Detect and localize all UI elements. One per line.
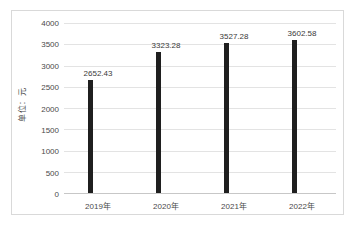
chart-frame: 单位：元 40003500300025002000150010005000 26… xyxy=(11,10,344,215)
bar-group: 2652.432019年 xyxy=(64,23,132,193)
bar-group: 3323.282020年 xyxy=(132,23,200,193)
gridline: 0 xyxy=(64,193,336,194)
plot-area: 40003500300025002000150010005000 2652.43… xyxy=(64,23,336,193)
bar[interactable] xyxy=(88,80,93,193)
x-axis-tick-label: 2019年 xyxy=(85,200,111,211)
bar[interactable] xyxy=(224,43,229,193)
x-axis-tick-label: 2020年 xyxy=(153,200,179,211)
x-axis-tick-label: 2022年 xyxy=(289,200,315,211)
bars-layer: 2652.432019年3323.282020年3527.282021年3602… xyxy=(64,23,336,193)
y-axis-tick-label: 1500 xyxy=(41,125,59,134)
y-axis-tick-label: 4000 xyxy=(41,19,59,28)
bar-value-label: 3323.28 xyxy=(152,41,181,50)
bar-value-label: 3602.58 xyxy=(288,29,317,38)
y-axis-tick-label: 0 xyxy=(55,190,59,199)
x-axis-tick-label: 2021年 xyxy=(221,200,247,211)
bar-value-label: 3527.28 xyxy=(220,32,249,41)
y-axis-tick-label: 500 xyxy=(46,168,59,177)
y-axis-tick-label: 2000 xyxy=(41,104,59,113)
bar-group: 3527.282021年 xyxy=(200,23,268,193)
bar-group: 3602.582022年 xyxy=(268,23,336,193)
bar[interactable] xyxy=(292,40,297,193)
y-axis-tick-label: 1000 xyxy=(41,147,59,156)
y-axis-tick-label: 3500 xyxy=(41,40,59,49)
y-axis-title: 单位：元 xyxy=(16,65,27,145)
y-axis-tick-label: 3000 xyxy=(41,61,59,70)
y-axis-tick-label: 2500 xyxy=(41,83,59,92)
bar[interactable] xyxy=(156,52,161,193)
bar-value-label: 2652.43 xyxy=(84,69,113,78)
